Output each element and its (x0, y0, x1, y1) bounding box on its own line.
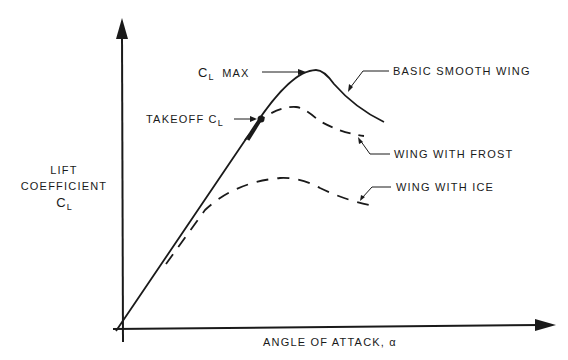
y-axis-arrow-icon (116, 18, 128, 39)
curve-basic-smooth-wing (116, 70, 384, 331)
curve-wing-with-frost (245, 107, 364, 140)
y-axis (122, 34, 123, 342)
takeoff-text: TAKEOFF C (146, 113, 218, 125)
y-axis-symbol: CL (14, 195, 114, 210)
basic-wing-leader (350, 71, 389, 88)
y-axis-symbol-sub: L (67, 202, 72, 212)
cl-max-label: CL MAX (198, 65, 250, 80)
x-axis (113, 325, 540, 329)
ice-leader (362, 187, 391, 198)
frost-leader (360, 140, 390, 154)
y-axis-label-line1: LIFT (14, 164, 114, 176)
legend-basic-smooth-wing: BASIC SMOOTH WING (393, 65, 531, 77)
x-axis-arrow-icon (535, 319, 556, 331)
cl-max-sub: L (209, 72, 214, 82)
cl-max-symbol: C (198, 65, 209, 80)
curve-wing-with-ice (166, 178, 369, 264)
legend-wing-with-frost: WING WITH FROST (394, 148, 513, 160)
takeoff-cl-label: TAKEOFF CL (146, 113, 223, 125)
x-axis-label: ANGLE OF ATTACK, α (263, 336, 397, 348)
y-axis-symbol-c: C (56, 195, 67, 210)
cl-max-text: MAX (222, 67, 249, 79)
takeoff-arrow-icon (250, 116, 257, 122)
legend-wing-with-ice: WING WITH ICE (396, 181, 494, 193)
y-axis-label-line2: COEFFICIENT (14, 180, 114, 192)
takeoff-sub: L (218, 118, 223, 128)
